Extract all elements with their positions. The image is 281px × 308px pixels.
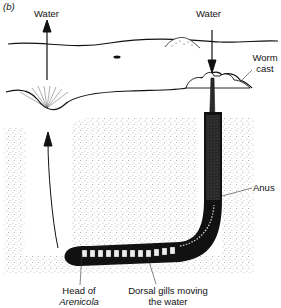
panel-label: (b) [3, 1, 15, 12]
upward-flow-arrow [44, 132, 58, 248]
surface-spot [114, 56, 121, 59]
water-in-arrow [208, 30, 216, 73]
depression-fan [20, 86, 68, 108]
water-out-label: Water [34, 8, 59, 19]
diagram-illustration [0, 0, 281, 308]
gills-label-line2: the water [118, 296, 218, 307]
sediment-right [222, 118, 254, 270]
water-in-label: Water [196, 8, 221, 19]
worm-cast-label-line2: cast [250, 63, 280, 74]
water-surface-line [8, 39, 278, 46]
anus-label: Anus [253, 182, 275, 193]
worm-cast-label-line1: Worm [250, 52, 280, 63]
arenicola-burrow-diagram: (b) Water Water Worm cast Anus Head of A… [0, 0, 281, 308]
worm-tail [206, 115, 220, 200]
sediment-left [4, 128, 26, 270]
water-out-arrow [43, 20, 51, 80]
head-label-line1: Head of [54, 285, 104, 296]
head-label-line2: Arenicola [54, 296, 104, 307]
gills-label-line1: Dorsal gills moving [118, 285, 218, 296]
sediment-center [72, 118, 198, 248]
